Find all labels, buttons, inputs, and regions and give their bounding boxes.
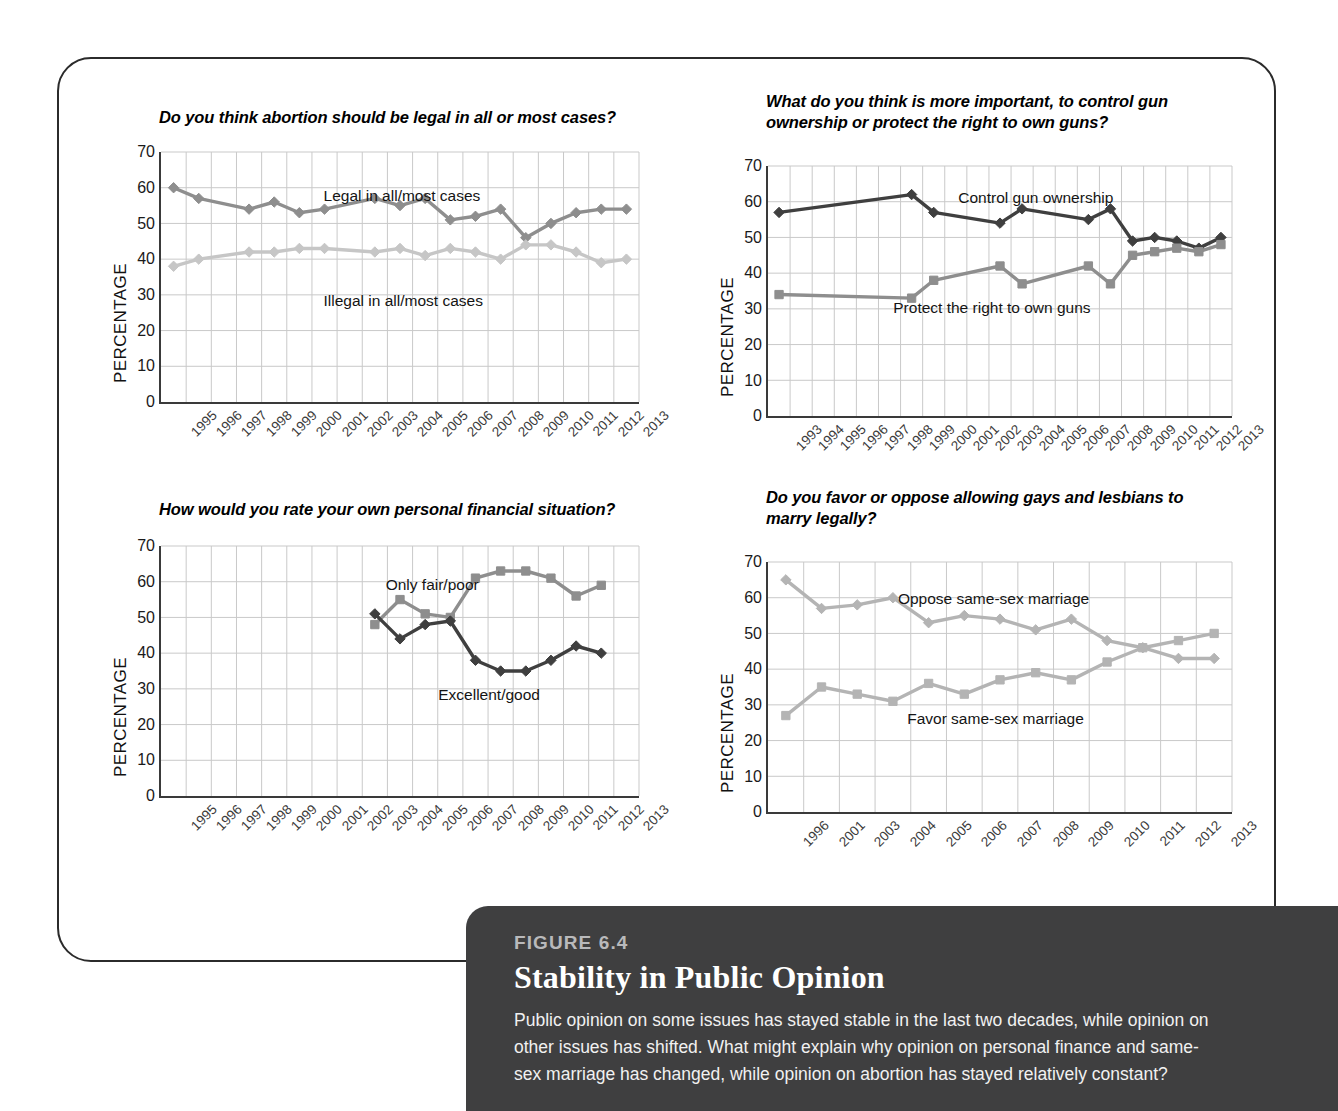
data-point [269,197,279,207]
y-tick-label: 20 [137,322,155,340]
chart-finance-plotwrap: PERCENTAGE 01020304050607019951996199719… [107,520,667,850]
x-tick-label: 1995 [188,802,220,834]
y-tick-label: 30 [744,300,762,318]
x-tick-label: 1996 [213,802,245,834]
y-tick-label: 60 [744,193,762,211]
data-point [596,204,606,214]
y-tick-label: 50 [137,609,155,627]
y-tick-label: 60 [137,573,155,591]
data-point [597,581,605,589]
x-tick-label: 2007 [489,408,521,440]
y-tick-label: 10 [137,751,155,769]
y-tick-label: 30 [137,286,155,304]
x-tick-label: 2003 [871,818,903,850]
data-point [194,254,204,264]
chart-marriage-plot: 0102030405060701996200120032004200520062… [766,562,1232,814]
data-point [996,262,1004,270]
series-line-1 [786,634,1214,716]
x-tick-label: 2010 [565,802,597,834]
series-annotation: Favor same-sex marriage [907,710,1084,728]
data-point [244,204,254,214]
data-point [1106,280,1114,288]
y-tick-label: 40 [137,644,155,662]
x-tick-label: 2001 [836,818,868,850]
x-tick-label: 2006 [978,818,1010,850]
chart-guns-plot: 0102030405060701993199419951996199719981… [766,166,1232,418]
figure-number: FIGURE 6.4 [514,932,1298,954]
data-point [370,247,380,257]
data-point [995,614,1005,624]
data-point [319,204,329,214]
x-tick-label: 2009 [540,802,572,834]
x-tick-label: 2008 [515,802,547,834]
x-tick-label: 2002 [364,802,396,834]
data-point [775,291,783,299]
x-tick-label: 2011 [1156,818,1187,849]
chart-marriage-ylabel: PERCENTAGE [718,673,738,793]
y-tick-label: 70 [137,537,155,555]
x-tick-label: 2009 [540,408,572,440]
data-point [244,247,254,257]
data-point [571,247,581,257]
data-point [774,207,784,217]
data-point [1173,653,1183,663]
x-tick-label: 2008 [515,408,547,440]
x-tick-label: 2006 [464,802,496,834]
data-point [1139,644,1147,652]
data-point [168,183,178,193]
data-point [371,621,379,629]
data-point [319,243,329,253]
x-tick-label: 2004 [907,818,939,850]
x-tick-label: 2000 [313,408,345,440]
data-point [572,592,580,600]
x-tick-label: 2001 [338,408,370,440]
chart-guns-ylabel: PERCENTAGE [718,277,738,397]
data-point [1173,244,1181,252]
data-point [1210,629,1218,637]
x-tick-label: 2011 [590,408,621,439]
y-tick-label: 10 [744,372,762,390]
x-tick-label: 1998 [263,408,295,440]
data-point [621,204,631,214]
data-point [168,261,178,271]
x-tick-label: 2003 [389,408,421,440]
x-tick-label: 2009 [1085,818,1117,850]
x-tick-label: 2001 [338,802,370,834]
series-annotation: Oppose same-sex marriage [898,590,1089,608]
y-tick-label: 60 [137,179,155,197]
y-tick-label: 50 [744,229,762,247]
x-tick-label: 1999 [288,408,320,440]
chart-finance: How would you rate your own personal fin… [107,499,667,889]
series-annotation: Legal in all/most cases [324,187,481,205]
chart-guns-title: What do you think is more important, to … [766,91,1216,133]
chart-finance-plot: 0102030405060701995199619971998199920002… [159,546,639,798]
y-tick-label: 20 [137,716,155,734]
chart-abortion-ylabel: PERCENTAGE [111,263,131,383]
y-tick-label: 50 [137,215,155,233]
y-tick-label: 60 [744,589,762,607]
y-tick-label: 20 [744,732,762,750]
x-tick-label: 2006 [464,408,496,440]
y-tick-label: 70 [137,143,155,161]
data-point [194,193,204,203]
y-tick-label: 70 [744,553,762,571]
x-tick-label: 2003 [389,802,421,834]
data-point [571,208,581,218]
data-point [470,211,480,221]
chart-abortion-plotwrap: PERCENTAGE 01020304050607019951996199719… [107,128,667,458]
chart-finance-title: How would you rate your own personal fin… [159,499,669,520]
y-tick-label: 10 [744,768,762,786]
x-tick-label: 2012 [615,802,647,834]
x-tick-label: 2004 [414,408,446,440]
chart-marriage-title: Do you favor or oppose allowing gays and… [766,487,1186,529]
data-point [1032,669,1040,677]
x-tick-label: 1999 [288,802,320,834]
data-point [495,666,505,676]
x-tick-label: 1996 [800,818,832,850]
series-annotation: Protect the right to own guns [893,299,1090,317]
data-point [269,247,279,257]
y-tick-label: 0 [753,803,762,821]
x-tick-label: 2013 [640,802,672,834]
data-point [1151,248,1159,256]
x-tick-label: 2011 [590,802,621,833]
